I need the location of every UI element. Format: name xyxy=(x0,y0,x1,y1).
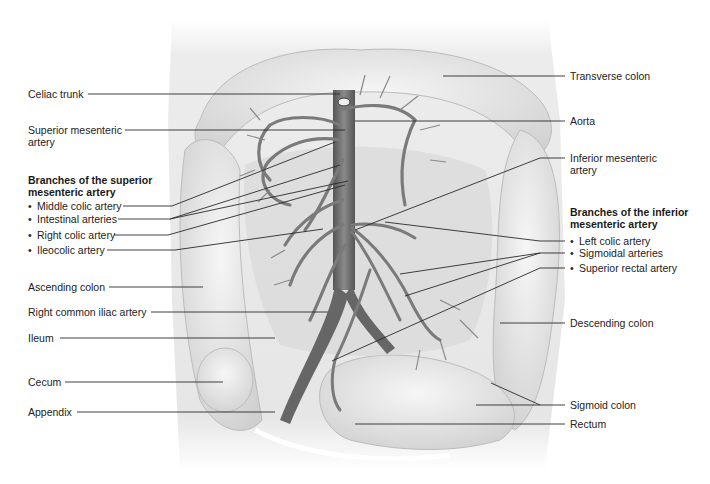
label-rectum: Rectum xyxy=(570,418,606,431)
label-right-colic-artery: •Right colic artery xyxy=(28,229,115,242)
bullet: • xyxy=(570,262,579,275)
heading-sma-branches-line2: mesenteric artery xyxy=(28,186,116,199)
label-ileocolic-artery: •Ileocolic artery xyxy=(28,244,105,257)
label-descending-colon: Descending colon xyxy=(570,317,653,330)
label-text: Right colic artery xyxy=(37,229,115,241)
label-aorta: Aorta xyxy=(570,115,595,128)
label-text: Sigmoidal arteries xyxy=(579,247,663,259)
label-transverse-colon: Transverse colon xyxy=(570,70,650,83)
label-ileum: Ileum xyxy=(28,332,54,345)
label-text: Superior rectal artery xyxy=(579,262,677,274)
bullet: • xyxy=(570,247,579,260)
bullet: • xyxy=(28,229,37,242)
label-sigmoidal-arteries: •Sigmoidal arteries xyxy=(570,247,663,260)
label-text: Intestinal arteries xyxy=(37,213,117,225)
label-ascending-colon: Ascending colon xyxy=(28,281,105,294)
label-inferior-mesenteric-artery-line2: artery xyxy=(570,164,597,177)
label-superior-mesenteric-artery-line2: artery xyxy=(28,136,55,149)
bullet: • xyxy=(28,200,37,213)
label-cecum: Cecum xyxy=(28,376,61,389)
label-celiac-trunk: Celiac trunk xyxy=(28,88,83,101)
label-superior-rectal-artery: •Superior rectal artery xyxy=(570,262,677,275)
heading-ima-branches-line2: mesenteric artery xyxy=(570,218,658,231)
label-appendix: Appendix xyxy=(28,406,72,419)
mesenteric-arteries-diagram: Celiac trunk Superior mesenteric artery … xyxy=(0,0,710,484)
label-text: Ileocolic artery xyxy=(37,244,105,256)
bullet: • xyxy=(28,244,37,257)
label-text: Middle colic artery xyxy=(37,200,122,212)
label-right-common-iliac-artery: Right common iliac artery xyxy=(28,306,146,319)
label-middle-colic-artery: •Middle colic artery xyxy=(28,200,122,213)
label-sigmoid-colon: Sigmoid colon xyxy=(570,399,636,412)
label-text: Left colic artery xyxy=(579,235,650,247)
label-intestinal-arteries: •Intestinal arteries xyxy=(28,213,117,226)
bullet: • xyxy=(28,213,37,226)
